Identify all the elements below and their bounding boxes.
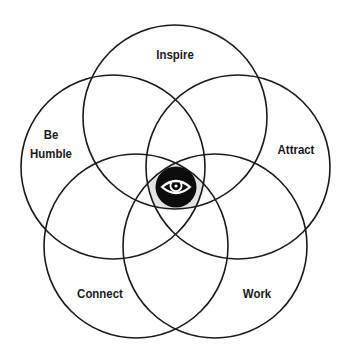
label-work: Work xyxy=(239,285,274,302)
label-be-humble-line1: Be xyxy=(29,126,73,143)
center-intersection xyxy=(123,154,307,338)
label-connect: Connect xyxy=(74,285,127,302)
label-be-humble-line2: Humble xyxy=(29,145,73,162)
label-attract: Attract xyxy=(273,141,319,158)
label-inspire: Inspire xyxy=(151,46,199,63)
venn-diagram: Inspire Be Humble Attract Connect Work xyxy=(0,0,349,361)
eye-icon xyxy=(156,167,197,208)
